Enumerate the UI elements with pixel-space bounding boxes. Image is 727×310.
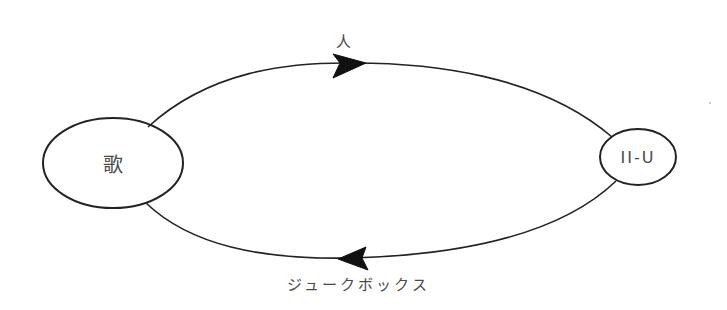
edge-top-label: 人 [336,30,351,51]
arrow-left-icon [338,247,368,270]
edge-top-curve [148,63,612,137]
edge-bottom-label: ジュークボックス [287,273,430,294]
stray-dot [709,102,711,104]
arrow-right-icon [333,54,366,78]
node-right-label: II-U [621,148,656,167]
node-left-label: 歌 [103,149,123,178]
edge-bottom-curve [146,181,616,258]
